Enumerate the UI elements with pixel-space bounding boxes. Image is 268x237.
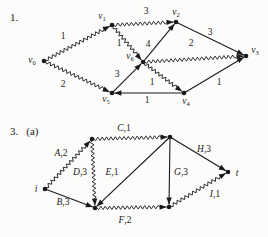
node-t: [226, 170, 231, 175]
edge-F: [97, 206, 167, 210]
node-label-v1: v1: [98, 11, 105, 22]
edge-label-D: D,3: [72, 167, 87, 177]
node-n3: [93, 206, 98, 211]
figure1-weighted-digraph: 12314321311v0v1v2v3v4v5v6: [28, 6, 258, 107]
edge-label-A: A,2: [54, 148, 68, 158]
edge-v1-v2: [114, 21, 174, 27]
edge-label-B: B,3: [57, 197, 70, 207]
figure2-activity-network: A,2B,3C,1D,3E,1G,3H,3F,2I,1it: [35, 123, 239, 225]
edge-G: [169, 139, 170, 205]
edge-label-v2-v3: 3: [208, 27, 213, 37]
node-v4: [182, 91, 187, 96]
edge-label-v6-v3: 2: [189, 38, 194, 48]
edge-label-v5-v6: 3: [115, 69, 120, 79]
edge-label-v1-v6: 1: [117, 38, 122, 48]
graphs-canvas: 12314321311v0v1v2v3v4v5v6 A,2B,3C,1D,3E,…: [0, 0, 268, 237]
arrowhead-D: [92, 199, 97, 206]
edge-label-v4-v3: 1: [217, 77, 222, 87]
edge-label-v1-v2: 3: [144, 6, 149, 16]
arrowhead-v2-v3: [236, 50, 243, 56]
edge-C: [94, 136, 168, 141]
edge-v6-v3: [145, 55, 244, 63]
node-v1: [110, 23, 115, 28]
node-n2: [168, 135, 173, 140]
edge-label-G: G,3: [174, 167, 188, 177]
edge-B: [46, 190, 92, 208]
textbook-graph-figures-page: 1. 3.(a) 12314321311v0v1v2v3v4v5v6 A,2B,…: [0, 0, 268, 237]
node-v2: [174, 20, 179, 25]
edge-A: [46, 141, 90, 188]
edge-H: [171, 138, 226, 171]
node-i: [43, 187, 48, 192]
edge-v0-v5: [45, 62, 109, 92]
edge-label-C: C,1: [117, 123, 131, 133]
arrowhead-B: [85, 202, 93, 207]
arrowhead-v1-v2: [167, 20, 174, 25]
edge-label-v0-v5: 2: [61, 79, 66, 89]
arrowhead-v6-v4: [175, 85, 182, 91]
node-label-i: i: [35, 184, 38, 194]
node-label-v5: v5: [102, 94, 109, 105]
edge-label-v4-v5: 1: [145, 95, 150, 105]
arrowhead-H: [219, 165, 226, 171]
node-v0: [42, 59, 47, 64]
edge-label-H: H,3: [196, 144, 211, 154]
edge-D: [91, 141, 97, 206]
node-label-v4: v4: [182, 96, 190, 107]
node-label-t: t: [236, 168, 239, 178]
arrowhead-A: [84, 141, 91, 148]
edge-label-v0-v1: 1: [61, 31, 66, 41]
node-v5: [110, 91, 115, 96]
edge-v0-v1: [45, 26, 110, 61]
edge-label-I: I,1: [209, 189, 221, 199]
arrowhead-F: [160, 204, 167, 209]
node-v6: [141, 60, 146, 65]
node-n1: [90, 137, 95, 142]
arrowhead-v4-v5: [114, 90, 121, 95]
node-label-v0: v0: [28, 55, 35, 66]
node-label-v2: v2: [172, 7, 179, 18]
edge-v4-v3: [185, 57, 244, 92]
arrowhead-C: [161, 135, 168, 140]
edge-label-F: F,2: [118, 215, 132, 225]
node-v3: [244, 54, 249, 59]
node-n4: [167, 205, 172, 210]
node-label-v3: v3: [251, 45, 258, 56]
arrowhead-v1-v6: [135, 53, 142, 60]
edge-label-E: E,1: [105, 167, 119, 177]
arrowhead-G: [166, 198, 171, 205]
edge-label-v6-v2: 4: [146, 39, 151, 49]
edge-label-v6-v4: 1: [150, 77, 155, 87]
